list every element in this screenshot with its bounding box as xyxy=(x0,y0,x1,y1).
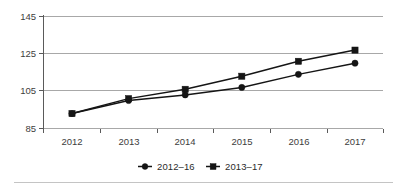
chart-canvas: 145 125 105 85 2012 2013 2014 2015 2016 … xyxy=(0,0,407,192)
y-tick-label-145: 145 xyxy=(20,11,36,22)
y-tick-label-105: 105 xyxy=(20,85,36,96)
legend-label-series-2: 2013–17 xyxy=(225,161,263,172)
x-tick-labels: 2012 2013 2014 2015 2016 2017 xyxy=(61,136,365,147)
x-tick-label-2014: 2014 xyxy=(174,136,195,147)
legend-square-marker-icon xyxy=(210,164,216,170)
data-point-marker xyxy=(295,58,301,64)
data-point-marker xyxy=(295,71,301,77)
y-tick-label-85: 85 xyxy=(25,123,36,134)
chart-legend: 2012–16 2013–17 xyxy=(138,161,263,172)
data-point-marker xyxy=(182,86,188,92)
line-chart-figure: 145 125 105 85 2012 2013 2014 2015 2016 … xyxy=(0,0,407,192)
data-point-marker xyxy=(239,73,245,79)
x-tick-label-2012: 2012 xyxy=(61,136,82,147)
data-point-marker xyxy=(352,60,358,66)
data-point-marker xyxy=(352,47,358,53)
x-tick-label-2017: 2017 xyxy=(344,136,365,147)
x-axis xyxy=(44,129,384,134)
x-tick-label-2016: 2016 xyxy=(288,136,309,147)
series-line-2012–16 xyxy=(72,63,355,113)
gridlines-group xyxy=(44,17,384,129)
series-layer xyxy=(69,47,358,117)
y-tick-labels: 145 125 105 85 xyxy=(20,11,36,134)
legend-circle-marker-icon xyxy=(142,164,148,170)
data-point-marker xyxy=(126,96,132,102)
data-point-marker xyxy=(239,84,245,90)
series-2 xyxy=(69,47,358,117)
y-tick-label-125: 125 xyxy=(20,48,36,59)
series-1 xyxy=(69,60,358,117)
x-tick-label-2015: 2015 xyxy=(231,136,252,147)
data-point-marker xyxy=(69,110,75,116)
y-axis xyxy=(39,15,44,129)
x-tick-label-2013: 2013 xyxy=(118,136,139,147)
data-point-marker xyxy=(182,92,188,98)
legend-label-series-1: 2012–16 xyxy=(157,161,195,172)
